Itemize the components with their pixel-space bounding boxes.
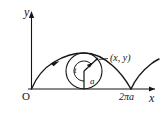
angle-arc-arrowhead-icon [87,63,93,68]
angle-label: t [74,66,77,75]
x-axis-label: x [149,92,154,104]
cycloid-figure: y x O 2πa (x, y) t a [0,0,164,116]
tracing-point-marker [96,58,99,61]
point-coordinates-label: (x, y) [110,53,131,63]
point-label-leader [99,59,108,60]
y-axis [29,11,34,89]
period-tick-label: 2πa [119,92,134,102]
y-axis-label: y [24,6,29,18]
origin-label: O [22,91,30,102]
cycloid-arch-second [131,59,159,89]
radius-label: a [90,77,95,86]
